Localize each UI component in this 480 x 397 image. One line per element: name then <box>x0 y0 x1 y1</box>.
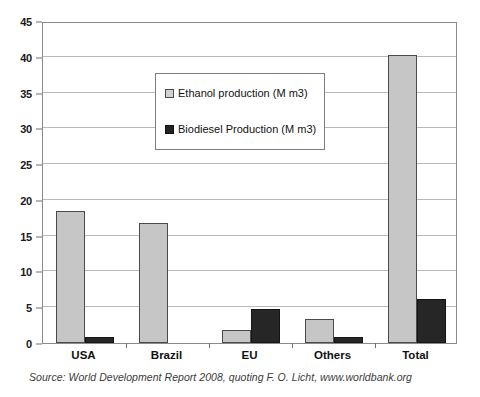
legend-item-ethanol: Ethanol production (M m3) <box>165 83 314 103</box>
bar-usa-ethanol <box>56 211 85 343</box>
y-tick-label: 15 <box>20 231 32 243</box>
bar-others-biodiesel <box>334 337 363 343</box>
x-tick-label-others: Others <box>314 349 351 361</box>
y-axis: 051015202530354045 <box>0 22 38 344</box>
bar-eu-biodiesel <box>251 309 280 343</box>
x-tick-label-usa: USA <box>71 349 95 361</box>
x-tick-label-eu: EU <box>242 349 258 361</box>
chart-legend: Ethanol production (M m3) Biodiesel Prod… <box>155 73 325 150</box>
y-tick-label: 30 <box>20 123 32 135</box>
legend-item-biodiesel: Biodiesel Production (M m3) <box>165 119 314 139</box>
source-caption: Source: World Development Report 2008, q… <box>29 371 412 383</box>
legend-swatch-biodiesel-icon <box>165 125 174 134</box>
x-tick-label-total: Total <box>402 349 429 361</box>
legend-label-biodiesel: Biodiesel Production (M m3) <box>178 123 316 135</box>
x-axis: USABrazilEUOthersTotal <box>42 349 457 369</box>
category-tick <box>375 343 376 348</box>
bar-others-ethanol <box>305 319 334 343</box>
y-tick-label: 20 <box>20 195 32 207</box>
y-tick-label: 35 <box>20 88 32 100</box>
bar-chart-figure: 051015202530354045 USABrazilEUOthersTota… <box>0 0 480 397</box>
bar-total-biodiesel <box>417 299 446 343</box>
bar-eu-ethanol <box>222 330 251 343</box>
category-tick <box>126 343 127 348</box>
y-tick-label: 10 <box>20 266 32 278</box>
category-tick <box>209 343 210 348</box>
x-tick-label-brazil: Brazil <box>151 349 182 361</box>
y-tick-label: 25 <box>20 159 32 171</box>
bars-layer <box>43 23 456 343</box>
bar-usa-biodiesel <box>85 337 114 343</box>
y-tick-label: 40 <box>20 52 32 64</box>
legend-label-ethanol: Ethanol production (M m3) <box>178 87 308 99</box>
bar-brazil-ethanol <box>139 223 168 343</box>
bar-total-ethanol <box>388 55 417 343</box>
plot-area <box>42 22 457 344</box>
legend-swatch-ethanol-icon <box>165 89 174 98</box>
y-tick-label: 5 <box>26 302 32 314</box>
y-tick-label: 45 <box>20 16 32 28</box>
category-tick <box>292 343 293 348</box>
y-tick-label: 0 <box>26 338 32 350</box>
